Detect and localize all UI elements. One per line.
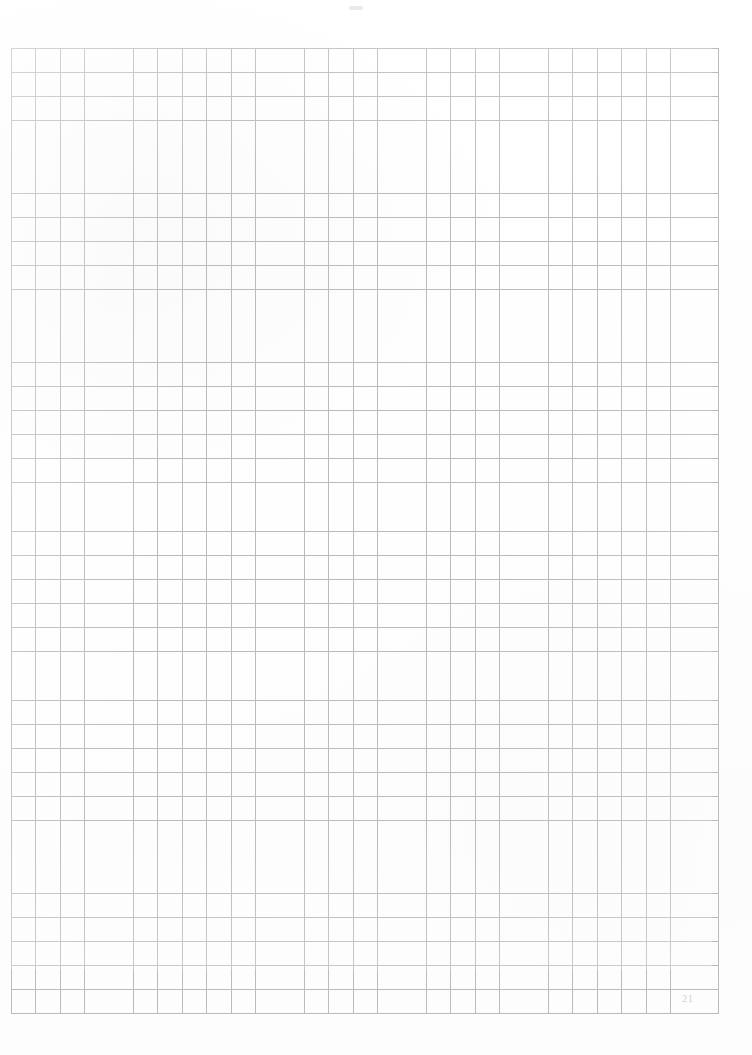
grid-right-edge-line	[718, 48, 719, 1014]
top-smudge-mark	[349, 6, 363, 10]
page-number: 21	[682, 994, 693, 1005]
grid-lines	[11, 48, 719, 1014]
grid-bottom-edge-line	[11, 1013, 719, 1014]
notebook-page: 21	[0, 0, 752, 1055]
graph-paper-grid	[11, 48, 719, 1014]
